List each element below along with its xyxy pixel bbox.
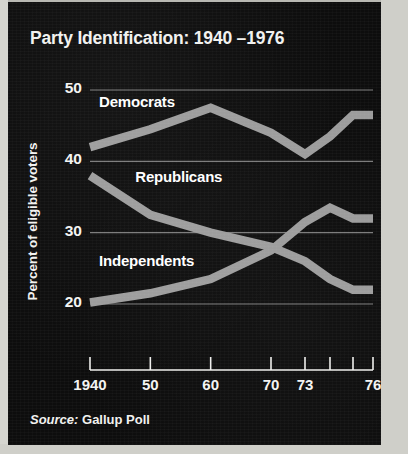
- y-tick-label-40: 40: [48, 150, 82, 168]
- x-tick-label-70: 70: [263, 376, 280, 393]
- series-lines: [90, 108, 373, 303]
- y-tick-label-30: 30: [48, 222, 82, 240]
- series-label-republicans: Republicans: [135, 168, 222, 185]
- y-tick-label-50: 50: [48, 79, 82, 97]
- series-label-independents: Independents: [99, 252, 194, 269]
- x-tick-label-50: 50: [142, 376, 159, 393]
- source-note: Source: Gallup Poll: [30, 412, 150, 427]
- x-tick-label-73: 73: [297, 376, 314, 393]
- source-value: Gallup Poll: [82, 412, 150, 427]
- source-label: Source:: [30, 412, 78, 427]
- x-tick-label-1940: 1940: [73, 376, 106, 393]
- paper-edge-right: [381, 0, 408, 454]
- paper-edge-bottom: [0, 444, 408, 454]
- x-axis-ticks: [90, 357, 373, 370]
- figure-page: Party Identification: 1940 –1976 Percent…: [0, 0, 408, 454]
- x-tick-label-60: 60: [202, 376, 219, 393]
- y-tick-label-20: 20: [48, 293, 82, 311]
- x-tick-label-76: 76: [365, 376, 381, 393]
- chart-panel: Party Identification: 1940 –1976 Percent…: [8, 2, 381, 445]
- paper-edge-left: [0, 0, 8, 454]
- series-label-democrats: Democrats: [99, 93, 175, 110]
